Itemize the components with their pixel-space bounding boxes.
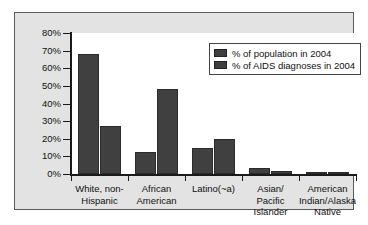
category-label-line: Native [293,206,362,218]
bar [214,139,235,174]
category-label-line: American [122,195,191,207]
y-axis-label: 20% [15,134,61,144]
chart-legend: % of population in 2004 % of AIDS diagno… [209,43,361,75]
bar [249,168,270,174]
x-axis-tick [128,176,129,181]
bar [271,171,292,174]
y-axis-tick [63,174,70,175]
x-axis-tick [185,176,186,181]
bar [157,89,178,174]
legend-item: % of population in 2004 [214,47,355,59]
bar-chart-figure: 80%70%60%50%40%30%20%10%0% White, non-Hi… [0,0,368,225]
y-axis-label: 40% [15,99,61,109]
x-axis-tick [299,176,300,181]
y-axis-label: 80% [15,28,61,38]
x-axis-tick [242,176,243,181]
bar [192,148,213,174]
y-axis-tick [63,104,70,105]
y-axis-tick [63,156,70,157]
y-axis-tick [63,51,70,52]
legend-item: % of AIDS diagnoses in 2004 [214,59,355,71]
bar [135,152,156,174]
category-label: AmericanIndian/AlaskaNative [293,183,362,218]
legend-swatch-population-icon [214,49,227,57]
x-axis-tick [71,176,72,181]
y-axis-tick [63,86,70,87]
bar [78,54,99,174]
chart-panel: 80%70%60%50%40%30%20%10%0% White, non-Hi… [14,12,354,210]
x-axis-line [70,174,357,176]
bar [100,126,121,174]
y-axis-label: 10% [15,151,61,161]
y-axis-tick [63,33,70,34]
bar [306,172,327,174]
y-axis-tick [63,121,70,122]
y-axis-label: 30% [15,116,61,126]
legend-swatch-aids-icon [214,61,227,69]
y-axis-label: 70% [15,46,61,56]
y-axis-tick [63,68,70,69]
x-axis-tick [356,176,357,181]
legend-label-population: % of population in 2004 [232,48,331,59]
category-label-line: American [293,183,362,195]
y-axis-label: 50% [15,81,61,91]
bar [328,172,349,174]
y-axis-line [70,32,72,176]
y-axis-tick [63,139,70,140]
legend-label-aids: % of AIDS diagnoses in 2004 [232,60,355,71]
y-axis-label: 0% [15,169,61,179]
y-axis-label: 60% [15,63,61,73]
category-label-line: Indian/Alaska [293,195,362,207]
